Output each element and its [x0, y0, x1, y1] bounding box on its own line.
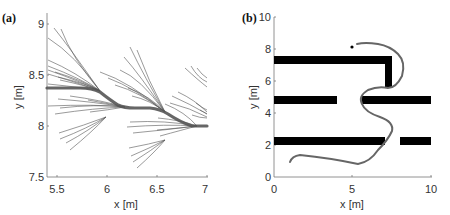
- panel-a-xtick: 5.5: [49, 183, 64, 195]
- figure: (a) 5.5 6 6.5 7 9 8.5 8 7.5 x [m] y [m]: [0, 0, 450, 215]
- panel-b-xtick: 10: [425, 183, 437, 195]
- goal-point: [350, 45, 353, 48]
- panel-a-xtick: 6: [104, 183, 110, 195]
- panel-a-ytick: 9: [38, 18, 44, 30]
- candidate-trajectories: [48, 28, 207, 168]
- panel-b-ytick: 4: [265, 107, 271, 119]
- panel-b-xtick: 5: [349, 183, 355, 195]
- panel-a-xtick: 6.5: [149, 183, 164, 195]
- panel-b-ytick: 10: [259, 11, 271, 23]
- panel-a-xtick: 7: [202, 183, 208, 195]
- panel-a-ytick: 7.5: [29, 171, 44, 183]
- panel-b: (b) 0 5 10 10 8 6 4 2 0 x [m] y [m]: [242, 11, 437, 210]
- panel-b-ytick: 6: [265, 75, 271, 87]
- panel-b-xlabel: x [m]: [340, 198, 364, 210]
- obstacle-mid-left: [274, 96, 337, 104]
- panel-a-label: (a): [2, 11, 16, 25]
- panel-b-ylabel: y [m]: [247, 85, 259, 109]
- obstacle-top-bar: [274, 56, 392, 64]
- panel-a-xlabel: x [m]: [114, 198, 138, 210]
- panel-b-label: (b): [242, 11, 257, 25]
- obstacle-mid-right: [362, 96, 431, 104]
- obstacle-bottom-right: [400, 137, 431, 145]
- panel-b-ytick: 0: [265, 171, 271, 183]
- panel-b-ytick: 2: [265, 139, 271, 151]
- obstacle-top-vertical: [385, 56, 392, 88]
- panel-a-ytick: 8.5: [29, 69, 44, 81]
- panel-a-ytick: 8: [38, 120, 44, 132]
- obstacles: [274, 56, 431, 145]
- panel-b-ytick: 8: [265, 43, 271, 55]
- panel-b-xtick: 0: [271, 183, 277, 195]
- obstacle-bottom-left: [274, 137, 385, 145]
- panel-a-ylabel: y [m]: [12, 85, 24, 109]
- panel-a: (a) 5.5 6 6.5 7 9 8.5 8 7.5 x [m] y [m]: [2, 11, 208, 210]
